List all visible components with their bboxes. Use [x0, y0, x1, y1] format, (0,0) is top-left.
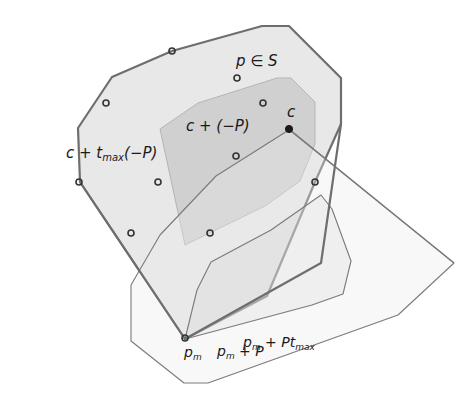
- label-c-tmax-sub: max: [102, 152, 124, 163]
- label-pm-plus-p-main: p: [216, 343, 226, 359]
- label-c: c: [287, 103, 296, 121]
- label-c-tmax-prefix: c + t: [66, 144, 103, 162]
- label-c-tmax-suffix: (−P): [124, 144, 157, 162]
- point-c-center: [285, 125, 292, 132]
- label-pm-plus-pt-sub2: max: [295, 342, 315, 352]
- label-c-neg-p: c + (−P): [186, 117, 250, 135]
- label-pm-plus-pt-sub: m: [252, 342, 261, 352]
- label-pm-sub: m: [193, 352, 202, 362]
- label-p-in-s: p ∈ S: [235, 52, 278, 70]
- label-pm-main: p: [183, 344, 193, 360]
- label-pm-plus-p-sub: m: [226, 351, 235, 361]
- label-pm-plus-pt-main: p: [242, 334, 252, 350]
- label-pm-plus-pt-mid: + Pt: [261, 334, 296, 350]
- diagram-canvas: p ∈ S c + tmax(−P) c + (−P) c pm pm + P …: [0, 0, 468, 410]
